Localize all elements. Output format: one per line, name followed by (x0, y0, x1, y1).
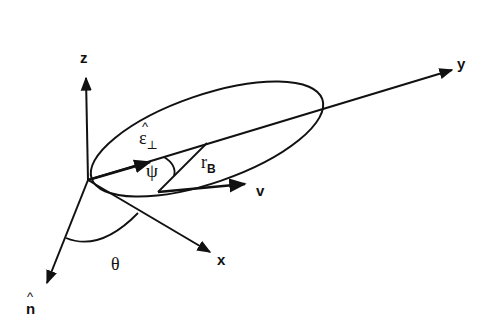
v-vector (158, 184, 245, 192)
theta-angle-arc (66, 213, 138, 242)
psi-angle-arc (164, 157, 175, 176)
psi-label: ψ (146, 161, 158, 180)
y-axis-label: y (457, 56, 465, 71)
polarization-geometry-diagram (0, 0, 494, 329)
perp-subscript: ⊥ (147, 138, 158, 152)
epsilon-perp-label: ε⊥ (139, 129, 158, 147)
z-axis-label: z (80, 50, 88, 65)
n-hat-axis (47, 180, 88, 283)
r-b-segment (158, 143, 207, 192)
theta-label: θ (111, 255, 120, 273)
v-label: v (256, 183, 264, 198)
epsilon-perp-vector (88, 162, 150, 180)
b-subscript: B (207, 162, 216, 176)
x-axis (88, 180, 210, 252)
z-axis (86, 78, 88, 180)
epsilon-symbol: ε (139, 128, 147, 148)
n-hat-label: n (26, 301, 35, 316)
x-axis-label: x (217, 252, 225, 267)
r-b-label: rB (201, 153, 216, 171)
